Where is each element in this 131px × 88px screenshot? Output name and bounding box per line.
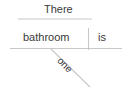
word-expletive-there: There <box>44 3 73 15</box>
word-subject-bathroom: bathroom <box>23 31 69 43</box>
word-verb-is: is <box>98 31 106 43</box>
sentence-diagram: There bathroom is one <box>0 0 131 88</box>
